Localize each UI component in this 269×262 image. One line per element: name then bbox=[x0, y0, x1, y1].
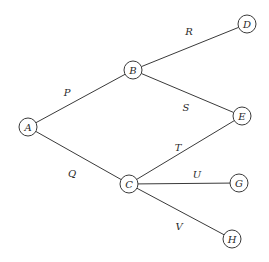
node-label: B bbox=[128, 65, 136, 76]
node-label: D bbox=[242, 19, 251, 30]
node-b: B bbox=[124, 61, 142, 79]
edge-label-u: U bbox=[193, 169, 202, 180]
node-d: D bbox=[238, 15, 256, 33]
node-e: E bbox=[233, 107, 251, 125]
node-label: E bbox=[237, 111, 246, 122]
node-label: H bbox=[227, 234, 237, 245]
edge-label-p: P bbox=[63, 87, 71, 98]
edges-group bbox=[36, 27, 239, 234]
edge-u bbox=[138, 183, 230, 184]
node-h: H bbox=[223, 230, 241, 248]
edge-q bbox=[36, 131, 121, 179]
node-a: A bbox=[19, 118, 37, 136]
edge-label-s: S bbox=[183, 102, 190, 113]
tree-diagram: PQRSTUV ABCDEGH bbox=[0, 0, 269, 262]
edge-label-q: Q bbox=[68, 168, 76, 179]
edge-label-v: V bbox=[175, 221, 184, 232]
edge-t bbox=[137, 121, 235, 180]
node-label: C bbox=[125, 179, 133, 190]
edge-labels-group: PQRSTUV bbox=[63, 26, 202, 232]
node-label: A bbox=[23, 122, 31, 133]
node-g: G bbox=[230, 174, 248, 192]
edge-p bbox=[36, 74, 125, 122]
edge-label-t: T bbox=[175, 142, 183, 153]
nodes-group: ABCDEGH bbox=[19, 15, 256, 248]
edge-label-r: R bbox=[184, 26, 193, 37]
node-label: G bbox=[235, 178, 243, 189]
node-c: C bbox=[120, 175, 138, 193]
